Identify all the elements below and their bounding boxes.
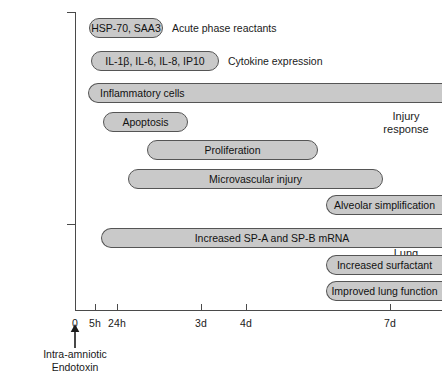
- x-axis-tick-24h: [117, 304, 118, 311]
- timeline-bar-label: Increased SP-A and SP-B mRNA: [195, 232, 350, 244]
- timeline-bar-label: Microvascular injury: [209, 173, 302, 185]
- timeline-bar-microvascular-injury[interactable]: Microvascular injury: [128, 169, 383, 189]
- endotoxin-caption-line2: Endotoxin: [43, 361, 107, 374]
- timeline-bar-label: Proliferation: [204, 144, 260, 156]
- x-axis-tick-0: [75, 304, 76, 311]
- timeline-bar-label: IL-1β, IL-6, IL-8, IP10: [105, 55, 204, 67]
- x-axis-tick-label: 7d: [384, 317, 396, 329]
- x-axis-tick-4d: [246, 304, 247, 311]
- endotoxin-caption: Intra-amniotic Endotoxin: [43, 348, 107, 374]
- x-axis-line: [75, 310, 442, 311]
- timeline-bar-improved-lung-function[interactable]: Improved lung function: [326, 281, 442, 301]
- timeline-bar-label: Improved lung function: [331, 285, 437, 297]
- endotoxin-caption-line1: Intra-amniotic: [43, 348, 107, 361]
- x-axis-tick-label: 4d: [240, 317, 252, 329]
- timeline-bar-label: Increased surfactant: [337, 259, 432, 271]
- y-axis-section-divider-tick: [67, 224, 76, 225]
- timeline-bar-label: Inflammatory cells: [100, 87, 185, 99]
- x-axis-tick-label: 3d: [195, 317, 207, 329]
- timeline-annotation-hsp70-saa3: Acute phase reactants: [172, 18, 276, 38]
- timeline-figure: Injury response Lung maturation HSP-70, …: [0, 0, 442, 379]
- timeline-bar-increased-surfactant[interactable]: Increased surfactant: [326, 255, 442, 275]
- x-axis-tick-label: 24h: [108, 317, 126, 329]
- timeline-bar-alveolar-simplification[interactable]: Alveolar simplification: [326, 195, 442, 215]
- timeline-bar-cytokines[interactable]: IL-1β, IL-6, IL-8, IP10: [91, 51, 219, 71]
- section-label-injury-line1: Injury: [370, 110, 442, 123]
- timeline-bar-apoptosis[interactable]: Apoptosis: [103, 112, 188, 132]
- x-axis-tick-label: 5h: [89, 317, 101, 329]
- timeline-bar-label: Alveolar simplification: [334, 199, 435, 211]
- x-axis-tick-7d: [390, 304, 391, 311]
- section-label-injury-line2: response: [370, 123, 442, 136]
- x-axis-tick-3d: [201, 304, 202, 311]
- y-axis-line: [75, 12, 76, 310]
- timeline-bar-sp-a-sp-b-mrna[interactable]: Increased SP-A and SP-B mRNA: [101, 228, 442, 248]
- section-label-injury-response: Injury response: [370, 110, 442, 136]
- timeline-bar-label: Apoptosis: [122, 116, 168, 128]
- x-axis-tick-5h: [95, 304, 96, 311]
- timeline-bar-proliferation[interactable]: Proliferation: [147, 140, 318, 160]
- endotoxin-arrow-icon: [70, 324, 81, 348]
- timeline-bar-hsp70-saa3[interactable]: HSP-70, SAA3: [89, 18, 163, 38]
- timeline-bar-inflammatory-cells[interactable]: Inflammatory cells: [88, 83, 442, 103]
- timeline-annotation-cytokines: Cytokine expression: [228, 51, 323, 71]
- timeline-bar-label: HSP-70, SAA3: [91, 22, 160, 34]
